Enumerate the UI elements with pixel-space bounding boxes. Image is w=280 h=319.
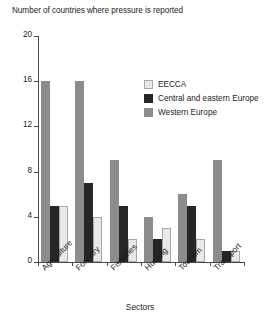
bar-group [213,36,240,262]
y-tick: 8 [0,172,38,173]
legend-item-eecca: EECCA [144,78,259,91]
bar-group [178,36,205,262]
bar-group [41,36,68,262]
bar-chart: Number of countries where pressure is re… [0,0,280,319]
bar [144,217,153,262]
bar-group [110,36,137,262]
legend-item-western-europe: Western Europe [144,106,259,119]
x-axis-title: Sectors [0,302,280,312]
y-tick-label: 8 [27,166,32,175]
y-tick: 4 [0,217,38,218]
legend-swatch-icon [144,108,153,117]
x-tick-mark [107,262,108,266]
legend-swatch-icon [144,80,153,89]
bar [178,194,187,262]
bar-group [75,36,102,262]
y-tick-label: 16 [23,75,32,84]
chart-title: Number of countries where pressure is re… [12,6,183,15]
legend-label: Central and eastern Europe [158,94,259,103]
y-tick: 12 [0,126,38,127]
legend-label: Western Europe [158,108,217,117]
legend-swatch-icon [144,94,153,103]
bar-group [144,36,171,262]
x-tick-mark [244,262,245,266]
y-tick-label: 0 [27,256,32,265]
bar [41,81,50,262]
y-tick: 16 [0,81,38,82]
y-tick-label: 12 [23,120,32,129]
y-tick-label: 4 [27,211,32,220]
plot-area [38,36,244,262]
legend-label: EECCA [158,80,186,89]
bar [213,160,222,262]
bar [110,160,119,262]
y-tick: 0 [0,262,38,263]
y-tick: 20 [0,36,38,37]
legend-item-central-and-eastern-europe: Central and eastern Europe [144,92,259,105]
chart-legend: EECCA Central and eastern Europe Western… [144,78,259,120]
y-tick-label: 20 [23,30,32,39]
x-tick-mark [210,262,211,266]
bar [75,81,84,262]
